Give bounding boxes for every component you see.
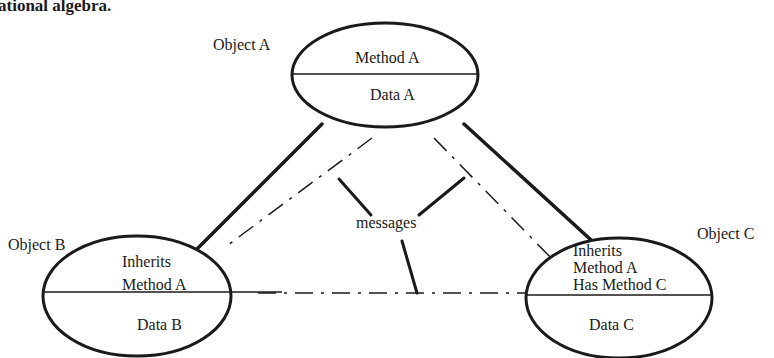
object-c: Inherits Method A Has Method C Data C Ob…: [526, 225, 754, 358]
object-a-data: Data A: [370, 86, 415, 103]
inheritance-line-a-c: [464, 124, 602, 250]
message-line-a-c: [434, 138, 556, 263]
object-a-method: Method A: [355, 49, 420, 66]
header-fragment: ational algebra.: [0, 0, 111, 15]
message-pointer-bottom: [402, 241, 417, 293]
object-b-method-line-2: Method A: [122, 276, 187, 293]
object-a-ellipse: [292, 23, 478, 127]
message-pointer-left: [339, 179, 371, 215]
message-pointer-right: [419, 178, 464, 215]
object-c-label: Object C: [697, 225, 754, 243]
object-c-method-line-3: Has Method C: [573, 276, 666, 293]
object-a-label: Object A: [213, 36, 271, 54]
object-c-data: Data C: [589, 316, 634, 333]
object-b-data: Data B: [137, 316, 182, 333]
object-diagram: ational algebra. messages Method A Data …: [0, 0, 774, 358]
messages-label: messages: [356, 214, 416, 232]
object-b-label: Object B: [8, 236, 65, 254]
object-b: Inherits Method A Data B Object B: [8, 236, 282, 356]
object-c-method-line-2: Method A: [573, 259, 638, 276]
object-a: Method A Data A Object A: [213, 23, 478, 127]
object-b-method-line-1: Inherits: [122, 253, 171, 270]
object-c-method-line-1: Inherits: [573, 242, 622, 259]
inheritance-line-a-b: [196, 124, 322, 250]
